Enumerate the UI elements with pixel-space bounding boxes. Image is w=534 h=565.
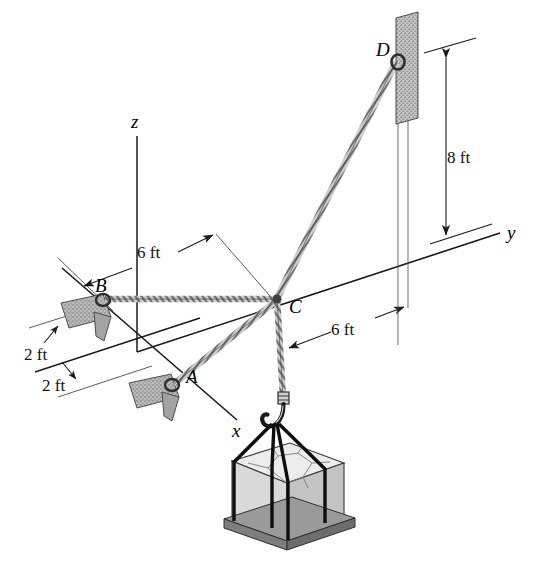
dim-8ft-extension-top [424,38,476,53]
z-axis-label: z [130,111,139,132]
point-label-d: D [375,39,390,60]
wall-plate-d [396,12,418,124]
point-label-c: C [289,296,302,317]
diagram-canvas: z y x 6 ft 6 ft 8 ft [0,0,534,565]
y-axis-label: y [505,222,516,243]
dim-8ft-extension-bottom [430,224,492,244]
x-axis-label: x [231,420,241,441]
support-bracket-b [61,294,111,341]
dim-6ft-right-arrow-left [289,332,331,348]
dim-6ft-left-label: 6 ft [137,243,160,262]
coordinate-axes: z y x [35,111,516,441]
bracket-b-gusset [94,312,111,341]
dim-8ft-label: 8 ft [447,148,470,167]
wall-plate-d-face [396,12,418,124]
cable-cd [277,62,396,298]
engineering-figure: z y x 6 ft 6 ft 8 ft [0,0,534,565]
ring-fittings [96,55,405,392]
dim-6ft-left-arrow-right [178,235,213,252]
dim-6ft-right-label: 6 ft [331,320,354,339]
sling-front [272,424,274,528]
junction-ring-c [273,295,282,304]
support-bracket-a [129,374,179,421]
cable-c-hook [277,299,283,397]
dimension-6ft-right: 6 ft [289,307,404,348]
ground-reference-line [35,318,200,372]
point-label-a: A [184,366,198,387]
dimension-8ft: 8 ft [424,38,492,244]
y-axis-line [137,233,500,352]
cable-cd-edge [277,62,396,298]
dim-2ft-lower-label: 2 ft [42,376,65,395]
dim-6ft-left-arrow-left [84,268,132,286]
dim-2ft-upper-label: 2 ft [24,345,47,364]
point-label-b: B [95,275,107,296]
bracket-a-gusset [162,392,179,421]
dim-6ft-right-arrow-right [375,307,404,318]
crate-assembly [224,424,355,550]
dim-2ft-upper-arrow [44,326,58,343]
lifting-hook [262,392,289,426]
dim-6ft-left-leader [216,234,270,296]
